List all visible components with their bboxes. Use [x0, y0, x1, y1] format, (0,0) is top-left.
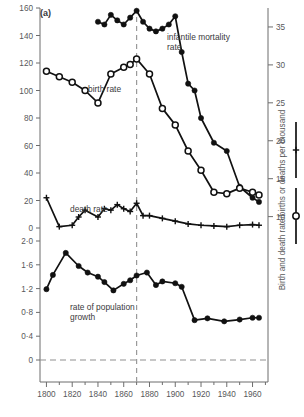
data-point: [237, 185, 243, 191]
y-lower-tick-label-0: 0: [28, 356, 33, 365]
data-point: [128, 15, 133, 20]
y-lower-tick-label-4: 1·6: [21, 261, 33, 270]
data-point: [185, 148, 191, 154]
data-point: [211, 189, 217, 195]
data-point: [192, 318, 197, 323]
data-point: [172, 122, 178, 128]
data-point: [121, 64, 127, 70]
data-point: [205, 316, 210, 321]
data-point: [43, 68, 49, 74]
data-point: [153, 29, 158, 34]
data-point: [95, 274, 100, 279]
data-point: [166, 22, 171, 27]
data-point: [250, 189, 256, 195]
data-point: [147, 26, 152, 31]
data-point: [224, 148, 229, 153]
data-point: [134, 56, 140, 62]
death-rate-label: death rate: [70, 204, 108, 214]
data-point: [127, 61, 133, 67]
x-tick-label-6: 1920: [192, 390, 211, 399]
data-point: [134, 8, 139, 13]
y-upper-tick-label-1: 20: [24, 197, 34, 206]
data-point: [159, 105, 165, 111]
data-point: [160, 279, 165, 284]
population-growth-label-line2: growth: [70, 312, 95, 322]
x-tick-label-5: 1900: [166, 390, 185, 399]
data-point: [192, 88, 197, 93]
y-right-axis-title: Birth and death rate/births or deaths pe…: [278, 109, 287, 290]
data-point: [153, 282, 158, 287]
infantile-mortality-label-line2: rate: [167, 42, 182, 52]
figure-panel-a: 02040608010012014016000·40·81·21·62·0101…: [0, 0, 304, 417]
y-upper-tick-label-4: 80: [24, 114, 34, 123]
data-point: [50, 272, 55, 277]
data-point: [224, 191, 230, 197]
y-upper-tick-label-0: 0: [28, 224, 33, 233]
birth-rate-label: birth rate: [88, 84, 121, 94]
x-tick-label-2: 1840: [89, 390, 108, 399]
y-right-tick-label-5: 35: [276, 23, 286, 32]
data-point: [102, 22, 107, 27]
data-point: [102, 279, 107, 284]
x-tick-label-8: 1960: [243, 390, 262, 399]
data-point: [173, 14, 178, 19]
data-point: [160, 26, 165, 31]
x-tick-label-3: 1860: [115, 390, 134, 399]
x-tick-label-1: 1820: [63, 390, 82, 399]
chart-background: [0, 0, 304, 417]
y-upper-tick-label-5: 100: [19, 87, 33, 96]
data-point: [111, 288, 116, 293]
y-lower-tick-label-2: 0·8: [21, 308, 33, 317]
y-right-tick-label-3: 25: [276, 99, 286, 108]
data-point: [44, 287, 49, 292]
data-point: [121, 22, 126, 27]
data-point: [76, 263, 81, 268]
data-point: [198, 115, 203, 120]
infantile-mortality-label: infantile mortality: [167, 32, 231, 42]
data-point: [256, 315, 261, 320]
data-point: [173, 281, 178, 286]
data-point: [198, 167, 204, 173]
open-circle-icon: [293, 213, 299, 219]
data-point: [56, 74, 62, 80]
data-point: [95, 100, 101, 106]
panel-label: (a): [40, 8, 51, 18]
y-lower-tick-label-3: 1·2: [21, 285, 33, 294]
data-point: [179, 284, 184, 289]
data-point: [69, 79, 75, 85]
data-point: [63, 250, 68, 255]
data-point: [128, 278, 133, 283]
data-point: [256, 192, 262, 198]
data-point: [250, 315, 255, 320]
y-lower-tick-label-1: 0·4: [21, 332, 33, 341]
data-point: [134, 273, 139, 278]
y-lower-tick-label-5: 2·0: [21, 237, 33, 246]
x-tick-label-7: 1940: [218, 390, 237, 399]
population-growth-label: rate of population: [70, 302, 135, 312]
data-point: [108, 12, 113, 17]
y-upper-tick-label-6: 120: [19, 59, 33, 68]
y-upper-tick-label-3: 60: [24, 142, 34, 151]
data-point: [115, 18, 120, 23]
x-tick-label-4: 1880: [140, 390, 159, 399]
data-point: [108, 71, 114, 77]
y-right-tick-label-4: 30: [276, 61, 286, 70]
population-statistics-chart: 02040608010012014016000·40·81·21·62·0101…: [0, 0, 304, 417]
data-point: [222, 319, 227, 324]
data-point: [186, 81, 191, 86]
y-upper-tick-label-7: 140: [19, 32, 33, 41]
data-point: [146, 71, 152, 77]
y-upper-tick-label-2: 40: [24, 169, 34, 178]
data-point: [85, 270, 90, 275]
data-point: [121, 281, 126, 286]
data-point: [237, 317, 242, 322]
data-point: [256, 199, 261, 204]
data-point: [140, 19, 145, 24]
data-point: [95, 19, 100, 24]
data-point: [144, 270, 149, 275]
data-point: [211, 140, 216, 145]
x-tick-label-0: 1800: [37, 390, 56, 399]
y-upper-tick-label-8: 160: [19, 4, 33, 13]
